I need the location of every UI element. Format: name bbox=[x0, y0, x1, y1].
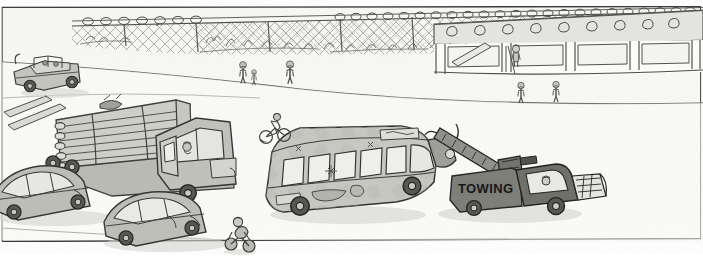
illustration-panel: TOWING bbox=[0, 0, 703, 275]
street-scene-drawing: TOWING bbox=[0, 0, 703, 275]
